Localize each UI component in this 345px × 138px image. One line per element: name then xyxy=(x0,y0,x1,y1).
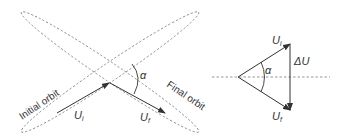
angle-arc xyxy=(132,64,138,94)
angle-label-right: α xyxy=(265,64,272,76)
delta-velocity-label: ΔU xyxy=(293,55,309,67)
final-velocity-symbol: U xyxy=(140,111,148,123)
final-velocity-symbol-right: U xyxy=(272,110,280,122)
orbit-transfer-diagram: α Initial orbit Final orbit Ui Uf α Ui xyxy=(0,0,345,138)
final-velocity-label-right: Uf xyxy=(272,110,283,123)
final-velocity-subscript-right: f xyxy=(280,116,283,123)
final-velocity-subscript: f xyxy=(148,117,151,124)
initial-velocity-symbol-right: U xyxy=(272,34,280,46)
angle-label-left: α xyxy=(140,69,147,81)
initial-orbit-ellipse xyxy=(16,5,203,138)
initial-velocity-label-left: Ui xyxy=(74,109,84,122)
initial-velocity-subscript: i xyxy=(82,115,84,122)
right-panel: α Ui Uf ΔU xyxy=(212,34,330,123)
left-panel: α Initial orbit Final orbit Ui Uf xyxy=(16,5,207,138)
final-orbit-ellipse xyxy=(16,5,203,138)
final-velocity-label-left: Uf xyxy=(140,111,151,124)
initial-velocity-symbol: U xyxy=(74,109,82,121)
initial-velocity-arrow xyxy=(57,83,109,113)
initial-velocity-label-right: Ui xyxy=(272,34,282,47)
final-velocity-arrow xyxy=(110,83,165,113)
final-orbit-label: Final orbit xyxy=(165,79,208,113)
initial-velocity-subscript-right: i xyxy=(280,40,282,47)
initial-orbit-label: Initial orbit xyxy=(17,87,61,122)
